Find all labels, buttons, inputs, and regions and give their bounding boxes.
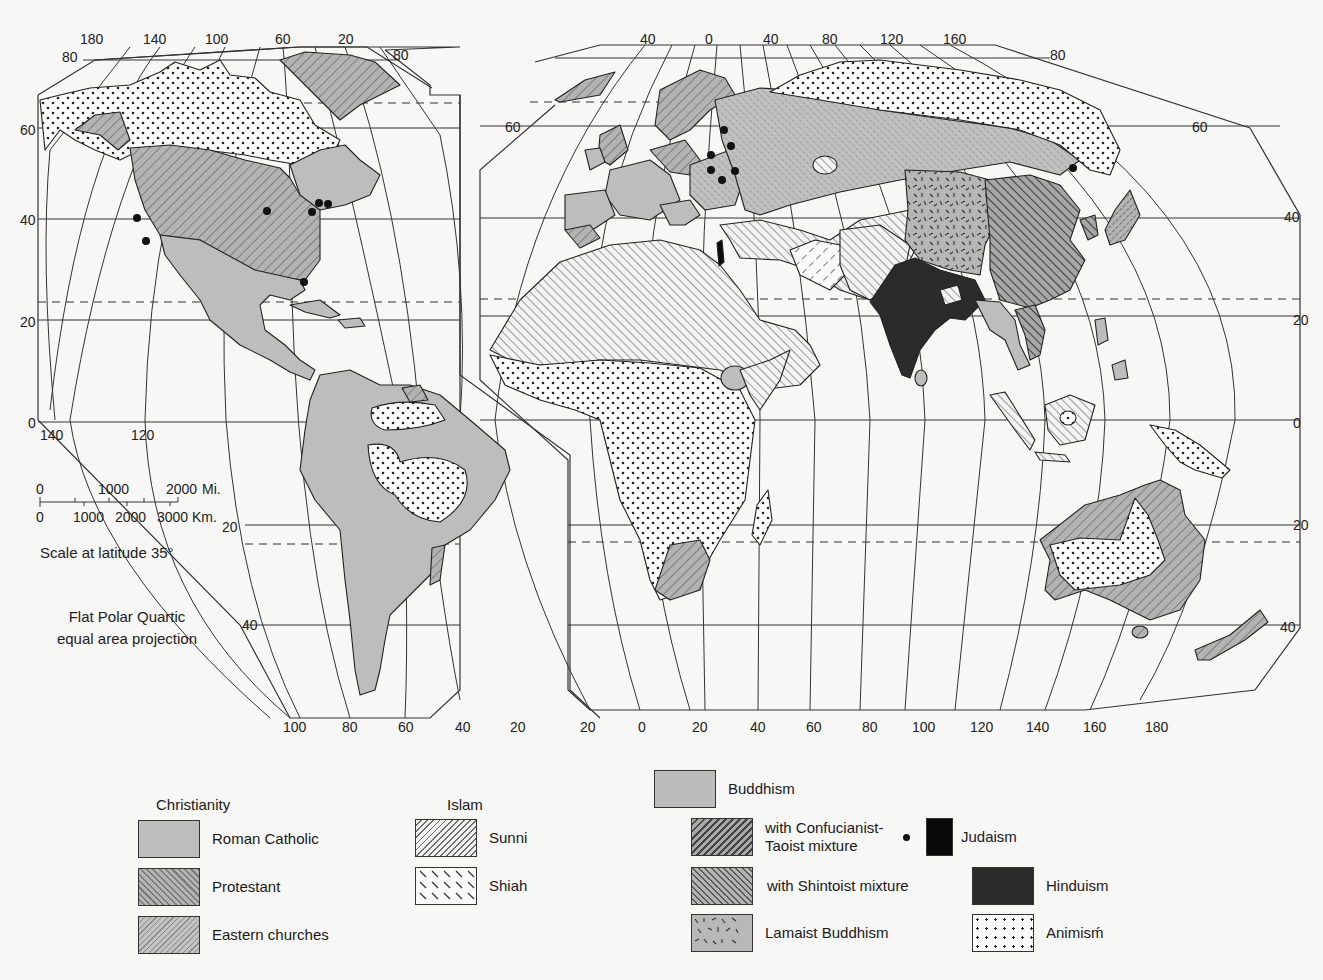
scale-bar: 0 1000 2000 Mi. 0 1000 2000 3000 Km. Sca… [36, 481, 221, 561]
lon-label: 140 [1026, 719, 1050, 735]
lon-label: 40 [763, 31, 779, 47]
lon-label: 100 [912, 719, 936, 735]
lon-label: 60 [275, 31, 291, 47]
lon-label: 100 [205, 31, 229, 47]
legend-item-buddhism: Buddhism [654, 770, 795, 808]
lon-label: 160 [1083, 719, 1107, 735]
legend-item-eastern-churches: Eastern churches [138, 916, 329, 954]
legend-heading-islam: Islam [447, 796, 483, 813]
svg-text:Flat Polar Quartic: Flat Polar Quartic [69, 608, 186, 625]
confucianist-taoist-swatch [691, 818, 753, 856]
legend-item-judaism: Judaism [903, 818, 1017, 856]
europe [555, 70, 745, 235]
lat-label: 20 [1293, 312, 1309, 328]
svg-text:equal area projection: equal area projection [57, 630, 197, 647]
legend-item-sunni: Sunni [415, 819, 527, 857]
lat-label: 80 [393, 47, 409, 63]
lat-label: 60 [505, 119, 521, 135]
lon-label: 120 [970, 719, 994, 735]
lon-label: 20 [580, 719, 596, 735]
lon-label: 20 [338, 31, 354, 47]
svg-text:Km.: Km. [192, 509, 217, 525]
lat-label: 60 [1192, 119, 1208, 135]
shintoist-swatch [691, 867, 753, 905]
legend-item-shiah: Shiah [415, 867, 527, 905]
lon-label: 180 [80, 31, 104, 47]
lat-label: 20 [222, 519, 238, 535]
lat-label: 80 [1050, 47, 1066, 63]
lon-label: 20 [510, 719, 526, 735]
lon-label: 40 [750, 719, 766, 735]
north-america [40, 52, 400, 380]
lat-label: 80 [62, 49, 78, 65]
svg-text:Mi.: Mi. [202, 481, 221, 497]
legend-item-shintoist: with Shintoist mixture [691, 867, 909, 905]
svg-text:1000: 1000 [98, 481, 129, 497]
lon-label: 0 [705, 31, 713, 47]
svg-text:3000: 3000 [157, 509, 188, 525]
lon-label: 140 [143, 31, 167, 47]
legend-item-protestant: Protestant [138, 868, 280, 906]
lon-label: 100 [283, 719, 307, 735]
sunni-swatch [415, 819, 477, 857]
lat-label: 60 [20, 122, 36, 138]
lat-label: 40 [20, 212, 36, 228]
legend-item-animism: Animisḿ [972, 914, 1104, 952]
legend-item-lamaist: Lamaist Buddhism [691, 914, 888, 952]
lat-label: 20 [1293, 517, 1309, 533]
lon-label: 60 [398, 719, 414, 735]
lat-label: 20 [20, 314, 36, 330]
lamaist-swatch [691, 914, 753, 952]
legend-item-hinduism: Hinduism [972, 867, 1109, 905]
shiah-swatch [415, 867, 477, 905]
south-asia [840, 170, 1140, 386]
protestant-swatch [138, 868, 200, 906]
lon-label: 60 [806, 719, 822, 735]
roman-catholic-swatch [138, 820, 200, 858]
lon-label: 40 [640, 31, 656, 47]
hinduism-swatch [972, 867, 1034, 905]
buddhism-swatch [654, 770, 716, 808]
lon-label: 20 [692, 719, 708, 735]
lat-label: 0 [1293, 415, 1301, 431]
scale-caption: Scale at latitude 35° [40, 544, 174, 561]
lat-label: 40 [1280, 619, 1296, 635]
svg-text:0: 0 [36, 509, 44, 525]
south-america [300, 370, 510, 695]
judaism-dot-icon [903, 834, 910, 841]
eastern-churches-swatch [138, 916, 200, 954]
projection-note: Flat Polar Quartic equal area projection [57, 608, 197, 647]
lon-label: 120 [880, 31, 904, 47]
lon-label: 80 [862, 719, 878, 735]
legend-item-roman-catholic: Roman Catholic [138, 820, 319, 858]
lon-label: 40 [455, 719, 471, 735]
legend-heading-christianity: Christianity [156, 796, 230, 813]
svg-text:0: 0 [36, 481, 44, 497]
svg-text:2000: 2000 [166, 481, 197, 497]
lon-label: 80 [342, 719, 358, 735]
lon-label: 0 [638, 719, 646, 735]
lon-label: 80 [822, 31, 838, 47]
lat-label: 0 [28, 415, 36, 431]
animism-swatch [972, 914, 1034, 952]
lon-label: 120 [131, 427, 155, 443]
legend: Christianity Roman Catholic Protestant E… [0, 760, 1323, 980]
lat-label: 40 [1284, 209, 1300, 225]
legend-item-confucianist-taoist: with Confucianist- Taoist mixture [691, 818, 883, 856]
lon-label: 160 [943, 31, 967, 47]
israel-judaism [717, 240, 724, 266]
africa-south [490, 350, 790, 600]
judaism-swatch [926, 818, 953, 856]
oceania [990, 392, 1268, 660]
svg-text:2000: 2000 [115, 509, 146, 525]
lon-label: 140 [40, 427, 64, 443]
lat-label: 40 [242, 617, 258, 633]
lon-label: 180 [1145, 719, 1169, 735]
religions-world-map: 180 140 100 60 20 80 60 40 20 0 80 20 40… [0, 0, 1323, 760]
svg-text:1000: 1000 [73, 509, 104, 525]
